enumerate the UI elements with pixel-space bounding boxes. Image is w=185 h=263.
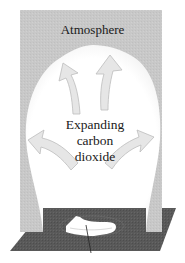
co2-label-line-1: Expanding — [50, 117, 140, 133]
co2-label-line-2: carbon — [50, 133, 140, 149]
expanding-co2-label: Expanding carbon dioxide — [50, 117, 140, 165]
co2-label-line-3: dioxide — [50, 149, 140, 165]
atmosphere-label: Atmosphere — [0, 23, 185, 36]
